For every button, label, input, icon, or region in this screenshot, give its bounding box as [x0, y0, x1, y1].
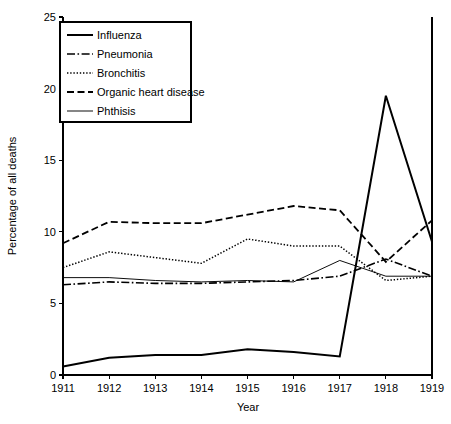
legend-label: Influenza [97, 29, 143, 41]
series-line-phthisis [63, 260, 432, 281]
y-tick-label: 15 [44, 154, 56, 166]
legend-label: Bronchitis [97, 67, 146, 79]
x-tick-label: 1913 [143, 382, 167, 394]
y-tick-label: 25 [44, 11, 56, 23]
series-lines [63, 96, 432, 367]
series-line-influenza [63, 96, 432, 367]
x-tick-label: 1911 [51, 382, 75, 394]
series-line-bronchitis [63, 239, 432, 281]
y-tick-label: 10 [44, 226, 56, 238]
y-tick-label: 20 [44, 83, 56, 95]
x-tick-label: 1918 [374, 382, 398, 394]
x-tick-label: 1912 [97, 382, 121, 394]
x-tick-label: 1916 [281, 382, 305, 394]
x-axis-title: Year [237, 401, 260, 413]
legend-label: Phthisis [97, 105, 136, 117]
x-tick-label: 1919 [420, 382, 444, 394]
x-tick-label: 1915 [235, 382, 259, 394]
chart-legend: InfluenzaPneumoniaBronchitisOrganic hear… [60, 22, 205, 122]
x-tick-label: 1914 [189, 382, 213, 394]
x-tick-label: 1917 [328, 382, 352, 394]
y-tick-label: 5 [50, 297, 56, 309]
line-chart: 0510152025 19111912191319141915191619171… [0, 0, 451, 424]
chart-container: 0510152025 19111912191319141915191619171… [0, 0, 451, 424]
legend-label: Organic heart disease [97, 86, 205, 98]
y-axis-title: Percentage of all deaths [6, 136, 18, 255]
y-tick-label: 0 [50, 369, 56, 381]
legend-label: Pneumonia [97, 48, 154, 60]
